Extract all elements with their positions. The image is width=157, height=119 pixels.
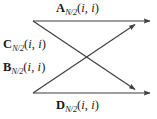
- label-b-subscript: N/2: [11, 67, 23, 76]
- label-a-top: AN/2(i, i): [56, 2, 99, 15]
- label-a-subscript: N/2: [65, 8, 77, 17]
- diagonal-down-edge: [33, 21, 135, 90]
- label-a-close-paren: ): [95, 1, 99, 15]
- label-c-subscript: N/2: [12, 44, 24, 53]
- label-b-lower-left: BN/2(i, i): [3, 61, 45, 74]
- label-a-symbol: A: [56, 1, 65, 15]
- label-c-close-paren: ): [42, 37, 46, 51]
- label-c-symbol: C: [3, 37, 12, 51]
- label-d-close-paren: ): [95, 98, 99, 112]
- label-b-close-paren: ): [41, 60, 45, 74]
- label-c-upper-left: CN/2(i, i): [3, 38, 46, 51]
- label-d-subscript: N/2: [65, 105, 77, 114]
- butterfly-diagram: AN/2(i, i) CN/2(i, i) BN/2(i, i) DN/2(i,…: [0, 0, 157, 119]
- diagonal-up-edge: [33, 25, 135, 94]
- label-d-bottom: DN/2(i, i): [56, 99, 99, 112]
- label-d-symbol: D: [56, 98, 65, 112]
